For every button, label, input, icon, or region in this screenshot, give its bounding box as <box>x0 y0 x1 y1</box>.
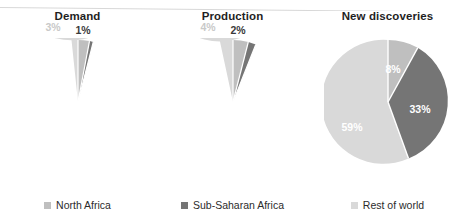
legend-swatch-north-africa <box>44 202 51 209</box>
pie-wrap-new-discoveries: 8% 33% 59% <box>324 38 452 166</box>
pie-label-north-africa: 8% <box>386 64 401 75</box>
pie-panel-demand: Demand <box>0 10 155 188</box>
pie-panels-row: Demand <box>0 10 465 188</box>
pie-svg-production <box>169 38 297 166</box>
pie-label-rest-of-world: 96% <box>60 135 81 146</box>
pie-new-discoveries: 8% 33% 59% <box>324 38 452 166</box>
chart-legend: North Africa Sub-Saharan Africa Rest of … <box>0 194 465 216</box>
pie-label-north-africa: 4% <box>201 22 216 33</box>
legend-swatch-rest-of-world <box>351 202 358 209</box>
pie-label-rest-of-world: 94% <box>215 135 236 146</box>
pie-panel-new-discoveries: New discoveries <box>310 10 465 188</box>
pie-slice-rest-of-world[interactable] <box>14 38 134 102</box>
pie-label-rest-of-world: 59% <box>342 122 363 133</box>
legend-label-sub-saharan-africa: Sub-Saharan Africa <box>193 199 284 211</box>
pie-label-sub-saharan-africa: 1% <box>76 25 91 36</box>
legend-label-north-africa: North Africa <box>56 199 111 211</box>
pie-production: 4% 2% 94% <box>169 38 297 166</box>
pie-panel-production: Production <box>155 10 310 188</box>
legend-item-north-africa[interactable]: North Africa <box>0 194 155 216</box>
pie-wrap-production: 4% 2% 94% <box>169 38 297 166</box>
pie-title-production: Production <box>155 10 310 22</box>
pie-label-north-africa: 3% <box>46 22 61 33</box>
legend-swatch-sub-saharan-africa <box>181 202 188 209</box>
pie-title-new-discoveries: New discoveries <box>310 10 465 22</box>
pie-slice-rest-of-world[interactable] <box>169 38 282 102</box>
legend-item-rest-of-world[interactable]: Rest of world <box>310 194 465 216</box>
pie-demand: 3% 1% 96% <box>14 38 142 166</box>
pie-svg-demand <box>14 38 142 166</box>
pie-title-demand: Demand <box>0 10 155 22</box>
pie-label-sub-saharan-africa: 33% <box>410 104 431 115</box>
legend-item-sub-saharan-africa[interactable]: Sub-Saharan Africa <box>155 194 310 216</box>
pie-wrap-demand: 3% 1% 96% <box>14 38 142 166</box>
legend-label-rest-of-world: Rest of world <box>363 199 424 211</box>
pie-chart-figure: Demand <box>0 0 465 224</box>
pie-svg-new-discoveries <box>324 38 452 166</box>
pie-label-sub-saharan-africa: 2% <box>231 25 246 36</box>
